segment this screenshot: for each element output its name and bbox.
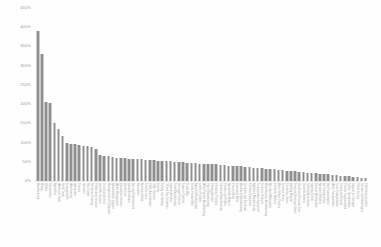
bar bbox=[77, 145, 81, 181]
bar bbox=[98, 155, 102, 181]
x-axis-tick-label: Construction bbox=[48, 183, 51, 197]
bar bbox=[297, 172, 301, 181]
bar bbox=[293, 171, 297, 181]
bar bbox=[177, 162, 181, 181]
bar bbox=[335, 175, 339, 181]
y-axis-tick-label: 450% bbox=[20, 6, 31, 10]
bar bbox=[169, 161, 173, 181]
x-axis-tick-label: Primary Metal bbox=[230, 183, 233, 199]
bar bbox=[206, 164, 210, 181]
bar bbox=[111, 157, 115, 181]
bar bbox=[227, 166, 231, 181]
bar bbox=[264, 169, 268, 181]
bar bbox=[219, 165, 223, 181]
bar bbox=[140, 159, 144, 181]
bar bbox=[256, 168, 260, 181]
x-axis-tick-label: Administrative Support bbox=[110, 183, 113, 209]
x-axis-tick-label: Sporting Goods bbox=[309, 183, 312, 201]
bar bbox=[57, 129, 61, 181]
x-axis-tick-label: Electronic Markets bbox=[272, 183, 275, 204]
bar bbox=[44, 102, 48, 181]
x-axis-tick-label: Public Administration bbox=[147, 183, 150, 207]
bar bbox=[82, 146, 86, 181]
bar bbox=[190, 163, 194, 181]
bar bbox=[306, 173, 310, 181]
x-axis-tick-label: Nonstore Retailers bbox=[318, 183, 321, 204]
x-axis-tick-label: General Merchandise bbox=[313, 183, 316, 207]
x-axis-tick-label: Other Services bbox=[152, 183, 155, 200]
x-axis-tick-label: Chemical Manufacturing bbox=[218, 183, 221, 210]
x-axis-tick-label: Plastics and Rubber bbox=[222, 183, 225, 206]
x-axis-tick-label: Health Care bbox=[123, 183, 126, 197]
y-axis-tick-label: 250% bbox=[20, 83, 31, 87]
y-axis-tick-label: 350% bbox=[20, 44, 31, 48]
x-axis-labels: ManufacturingMiningUtilitiesConstruction… bbox=[35, 183, 367, 245]
bar bbox=[69, 144, 73, 181]
x-axis-tick-label: Textile Product Mills bbox=[189, 183, 192, 206]
bar bbox=[277, 170, 281, 181]
x-axis-tick-label: Furniture Stores bbox=[280, 183, 283, 201]
bar bbox=[123, 158, 127, 181]
x-axis-tick-label: Arts and Entertainment bbox=[131, 183, 134, 209]
x-axis-tick-label: Food Services bbox=[143, 183, 146, 199]
bar bbox=[356, 177, 360, 181]
bar bbox=[194, 163, 198, 181]
x-axis-tick-label: Wholesale Trade bbox=[56, 183, 59, 202]
x-axis-tick-label: Building Material bbox=[289, 183, 292, 202]
bar bbox=[136, 159, 140, 181]
bar bbox=[210, 164, 214, 181]
bar bbox=[281, 170, 285, 181]
bar bbox=[289, 171, 293, 181]
bar bbox=[310, 173, 314, 181]
x-axis-tick-label: Insurance bbox=[81, 183, 84, 194]
bar bbox=[322, 174, 326, 181]
bar bbox=[148, 160, 152, 181]
x-axis-tick-label: Wood Product Manufacturing bbox=[201, 183, 204, 216]
x-axis-tick-label: Postal Service bbox=[355, 183, 358, 199]
y-axis-tick-label: 50% bbox=[23, 160, 32, 164]
x-axis-tick-label: Transit and Ground bbox=[338, 183, 341, 205]
plot-area bbox=[35, 8, 367, 181]
x-axis-tick-label: Warehousing bbox=[69, 183, 72, 198]
y-axis-tick-label: 0% bbox=[25, 179, 31, 183]
x-axis-tick-label: Apparel Manufacturing bbox=[193, 183, 196, 209]
x-axis-tick-label: Professional Services bbox=[94, 183, 97, 208]
x-axis-tick-label: Agriculture bbox=[52, 183, 55, 195]
x-axis-tick-label: Electronics Stores bbox=[284, 183, 287, 204]
x-axis-tick-label: Water Transportation bbox=[330, 183, 333, 207]
bar bbox=[252, 168, 256, 181]
bar bbox=[185, 163, 189, 181]
x-axis-tick-label: Gasoline Stations bbox=[301, 183, 304, 203]
bar bbox=[131, 159, 135, 181]
x-axis-tick-label: Technical Services bbox=[102, 183, 105, 204]
bar bbox=[331, 175, 335, 181]
bar bbox=[40, 54, 44, 181]
x-axis-tick-label: Fishing and Hunting bbox=[160, 183, 163, 206]
bar bbox=[115, 158, 119, 181]
x-axis-tick-label: Information bbox=[73, 183, 76, 196]
bar-chart: 0%50%100%150%200%250%300%350%400%450% Ma… bbox=[0, 0, 381, 247]
x-axis-tick-label: Truck Transportation bbox=[334, 183, 337, 206]
bar bbox=[347, 176, 351, 181]
x-axis-tick-label: Air Transportation bbox=[322, 183, 325, 203]
y-axis-tick-label: 300% bbox=[20, 64, 31, 68]
x-axis-tick-label: Textile Mills bbox=[185, 183, 188, 196]
bar bbox=[231, 166, 235, 181]
bar bbox=[156, 161, 160, 181]
bar bbox=[36, 31, 40, 181]
x-axis-tick-label: Computer and Electronic bbox=[243, 183, 246, 211]
x-axis-tick-label: Social Assistance bbox=[127, 183, 130, 203]
bar bbox=[351, 177, 355, 181]
bar bbox=[86, 146, 90, 181]
bar bbox=[314, 173, 318, 181]
x-axis-tick-label: Miscellaneous Manufacturing bbox=[264, 183, 267, 216]
x-axis-tick-label: Transportation bbox=[64, 183, 67, 199]
bar bbox=[273, 169, 277, 181]
bar bbox=[223, 165, 227, 181]
bar bbox=[119, 158, 123, 181]
x-axis-tick-label: Accommodation bbox=[139, 183, 142, 201]
x-axis-tick-label: Transportation Equipment bbox=[255, 183, 258, 212]
x-axis-tick-label: Health and Personal Care bbox=[297, 183, 300, 212]
x-axis-tick-label: Manufacturing bbox=[35, 183, 38, 199]
x-axis-tick-label: Rental and Leasing bbox=[89, 183, 92, 205]
